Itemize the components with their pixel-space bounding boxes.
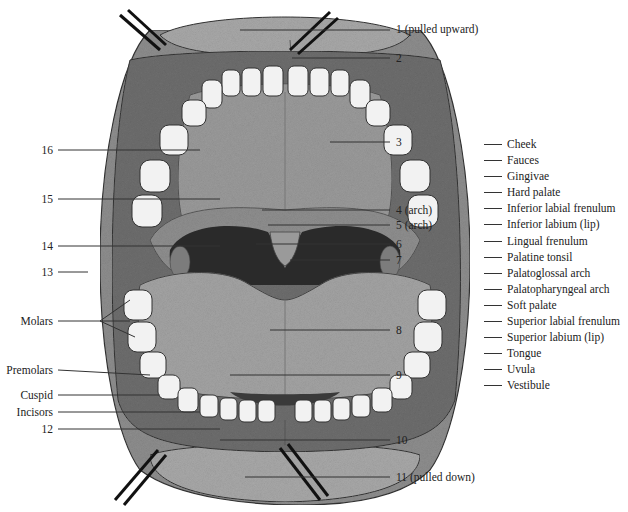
word-bank-item: Palatine tonsil [484,249,620,265]
label-13: 13 [42,265,54,279]
answer-blank[interactable] [484,337,502,338]
label-1: 1 (pulled upward) [396,22,478,36]
word-bank-item: Inferior labial frenulum [484,200,620,216]
label-10: 10 [396,433,408,447]
label-14: 14 [42,239,54,253]
word-bank-item: Lingual frenulum [484,233,620,249]
superior-lip [160,17,410,56]
label-premolars: Premolars [6,363,53,377]
word-bank-item: Hard palate [484,184,620,200]
word-bank-item: Palatoglossal arch [484,265,620,281]
answer-blank[interactable] [484,224,502,225]
answer-blank[interactable] [484,144,502,145]
label-11: 11 (pulled down) [396,470,475,484]
answer-blank[interactable] [484,257,502,258]
label-2: 2 [396,51,402,65]
label-molars: Molars [20,314,53,328]
word-bank-item: Superior labium (lip) [484,329,620,345]
word-bank-item: Inferior labium (lip) [484,216,620,232]
label-12: 12 [42,422,54,436]
answer-blank[interactable] [484,385,502,386]
answer-blank[interactable] [484,305,502,306]
word-bank-item: Soft palate [484,297,620,313]
answer-blank[interactable] [484,176,502,177]
answer-blank[interactable] [484,160,502,161]
label-9: 9 [396,368,402,382]
label-7: 7 [396,253,402,267]
label-16: 16 [42,143,54,157]
word-bank: Cheek Fauces Gingivae Hard palate Inferi… [484,136,620,394]
answer-blank[interactable] [484,289,502,290]
label-3: 3 [396,135,402,149]
word-bank-item: Cheek [484,136,620,152]
label-15: 15 [42,192,54,206]
word-bank-item: Gingivae [484,168,620,184]
word-bank-item: Uvula [484,361,620,377]
word-bank-item: Palatopharyngeal arch [484,281,620,297]
answer-blank[interactable] [484,369,502,370]
label-cuspid: Cuspid [20,388,53,402]
answer-blank[interactable] [484,353,502,354]
label-5: 5 (arch) [396,218,432,232]
word-bank-item: Tongue [484,345,620,361]
label-incisors: Incisors [17,405,53,419]
answer-blank[interactable] [484,208,502,209]
answer-blank[interactable] [484,241,502,242]
label-8: 8 [396,323,402,337]
word-bank-item: Superior labial frenulum [484,313,620,329]
answer-blank[interactable] [484,321,502,322]
label-6: 6 [396,237,402,251]
answer-blank[interactable] [484,192,502,193]
answer-blank[interactable] [484,273,502,274]
word-bank-item: Vestibule [484,377,620,393]
label-4: 4 (arch) [396,203,432,217]
word-bank-item: Fauces [484,152,620,168]
